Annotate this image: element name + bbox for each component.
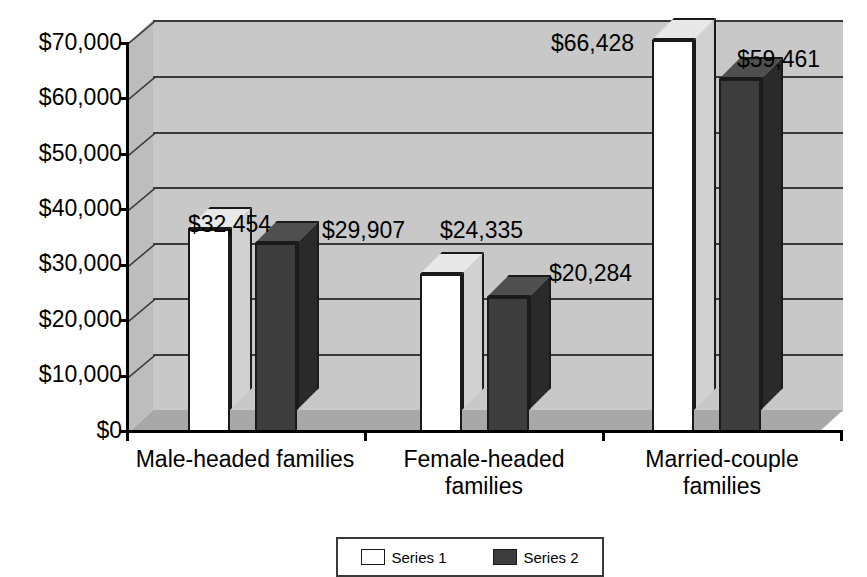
x-axis-tick [602, 430, 605, 441]
y-axis-tick [119, 42, 129, 45]
y-axis-line [126, 42, 129, 432]
y-axis-tick [119, 264, 129, 267]
bar-series1-cat3[interactable] [652, 18, 716, 432]
x-axis-category-label-1: Male-headed families [125, 446, 365, 473]
category-label-line: Married-couple [602, 446, 842, 473]
bar-front-face [188, 229, 230, 432]
y-axis-tick [119, 319, 129, 322]
y-axis-tick-label: $40,000 [4, 197, 122, 220]
legend-swatch-icon [493, 549, 517, 565]
y-axis-tick-label: $20,000 [4, 308, 122, 331]
category-label-line: families [602, 473, 842, 500]
y-axis-tick-label: $30,000 [4, 252, 122, 275]
bar-front-face [652, 40, 694, 432]
bar-side-face [297, 221, 319, 432]
x-axis-category-label-2: Female-headed families [364, 446, 604, 500]
data-label-series1-cat1: $32,454 [188, 213, 271, 236]
legend-entry-series1[interactable]: Series 1 [361, 549, 446, 566]
bar-side-face [761, 57, 783, 432]
x-axis-line [126, 430, 843, 433]
bar-series1-cat1[interactable] [188, 207, 252, 432]
y-axis-tick-label: $50,000 [4, 142, 122, 165]
y-axis-tick-label: $70,000 [4, 31, 122, 54]
category-label-line: Female-headed [364, 446, 604, 473]
data-label-series1-cat3: $66,428 [551, 32, 634, 55]
y-axis-tick-label: $0 [4, 419, 122, 442]
bar-side-face [529, 275, 551, 432]
data-label-series2-cat2: $20,284 [549, 262, 632, 285]
y-axis-tick-label: $10,000 [4, 363, 122, 386]
x-axis-tick [840, 430, 843, 441]
bar-front-face [487, 297, 529, 432]
category-label-line: families [364, 473, 604, 500]
y-axis-tick [119, 375, 129, 378]
y-axis-tick [119, 208, 129, 211]
data-label-series2-cat3: $59,461 [737, 48, 820, 71]
y-axis-tick [119, 153, 129, 156]
legend-entry-series2[interactable]: Series 2 [493, 549, 578, 566]
chart-legend: Series 1 Series 2 [336, 537, 604, 577]
x-axis-tick [126, 430, 129, 441]
x-axis-tick [364, 430, 367, 441]
legend-label: Series 2 [523, 549, 578, 566]
x-axis-category-label-3: Married-couple families [602, 446, 842, 500]
y-axis-tick [119, 97, 129, 100]
bar-series1-cat2[interactable] [420, 252, 484, 432]
gridline [153, 20, 843, 22]
bar-front-face [420, 274, 462, 432]
bar-front-face [719, 79, 761, 432]
data-label-series1-cat2: $24,335 [440, 219, 523, 242]
y-axis-labels: $70,000 $60,000 $50,000 $40,000 $30,000 … [0, 0, 122, 450]
bar-side-face [230, 207, 252, 432]
bar-side-face [694, 18, 716, 432]
bar-side-face [462, 252, 484, 432]
legend-label: Series 1 [391, 549, 446, 566]
bar-series2-cat2[interactable] [487, 275, 551, 432]
bar-series2-cat1[interactable] [255, 221, 319, 432]
bar-front-face [255, 243, 297, 432]
data-label-series2-cat1: $29,907 [322, 219, 405, 242]
y-axis-tick-label: $60,000 [4, 86, 122, 109]
category-label-line: Male-headed families [125, 446, 365, 473]
bar-series2-cat3[interactable] [719, 57, 783, 432]
legend-swatch-icon [361, 549, 385, 565]
